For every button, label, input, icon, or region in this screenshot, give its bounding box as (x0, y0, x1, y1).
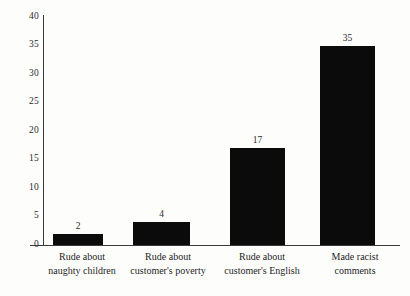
bar-value-4: 35 (320, 33, 375, 43)
y-tick-30: 30 (5, 69, 39, 79)
bar-group-4: 35 (320, 17, 375, 245)
y-tick-40: 40 (5, 12, 39, 22)
y-tick-15: 15 (5, 154, 39, 164)
x-label-made-racist-comments: Made racist comments (300, 250, 410, 278)
bar-group-1: 2 (53, 17, 103, 245)
y-tick-35: 35 (5, 40, 39, 50)
y-tick-25: 25 (5, 97, 39, 107)
bar-rude-customer-english (230, 148, 285, 245)
y-tick-20: 20 (5, 126, 39, 136)
bar-value-3: 17 (230, 135, 285, 145)
x-axis-line (30, 245, 400, 246)
bar-rude-customer-poverty (133, 222, 190, 245)
bar-rude-naughty-children (53, 234, 103, 245)
plot-area: 2 4 17 35 (43, 17, 400, 245)
y-tick-10: 10 (5, 183, 39, 193)
bar-group-3: 17 (230, 17, 285, 245)
x-label-line-1: Made racist (300, 250, 410, 264)
bar-value-1: 2 (53, 221, 103, 231)
bar-made-racist-comments (320, 46, 375, 246)
x-label-line-2: comments (300, 264, 410, 278)
y-tick-5: 5 (5, 211, 39, 221)
bar-group-2: 4 (133, 17, 190, 245)
bar-value-2: 4 (133, 209, 190, 219)
bar-chart: 40 35 30 25 20 15 10 5 0 2 4 17 35 Rude … (0, 0, 410, 296)
